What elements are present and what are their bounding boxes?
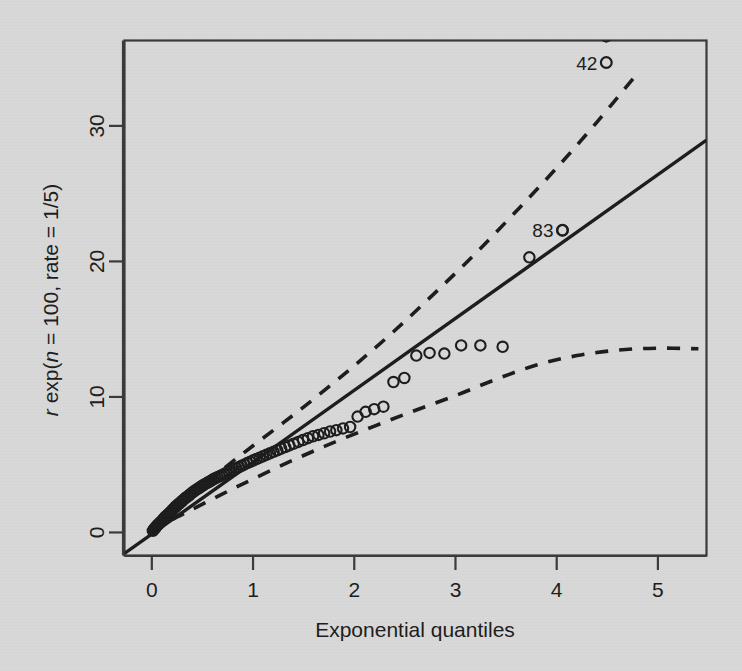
reference-line [125,140,707,553]
y-axis-title-rest: = 100, rate = 1/5) [39,184,62,351]
data-point [411,350,421,360]
data-point [456,340,466,350]
confidence-band-upper-band [152,73,638,530]
point-annotation-label: 42 [576,53,597,74]
y-axis-title-open: exp( [39,362,62,409]
y-tick-label: 10 [85,385,108,408]
data-point [524,252,534,262]
annotated-data-point [601,57,612,68]
data-point [475,340,485,350]
data-point [612,23,622,33]
point-annotation-label: 83 [532,220,553,241]
confidence-band-lower-band [152,348,699,532]
point-annotations: 4283 [532,53,611,242]
data-point [439,348,449,358]
y-axis-ticks: 0102030 [85,114,123,538]
y-axis: 0102030 [85,41,123,556]
qq-plot: 4283 012345 0102030 Exponential quantile… [0,0,742,671]
x-axis-title: Exponential quantiles [315,618,515,641]
x-tick-label: 3 [450,578,462,601]
x-tick-label: 0 [146,578,158,601]
qq-reference-line [125,140,707,553]
data-point [345,422,355,432]
x-tick-label: 4 [551,578,563,601]
y-axis-title-n: n [39,351,62,363]
data-point [399,373,409,383]
x-axis: 012345 [125,556,707,601]
figure-canvas: 4283 012345 0102030 Exponential quantile… [0,0,742,671]
x-axis-ticks: 012345 [146,556,664,601]
data-point [497,342,507,352]
x-tick-label: 2 [348,578,360,601]
data-points [148,23,623,536]
data-point [388,377,398,387]
data-point [424,348,434,358]
y-tick-label: 0 [85,527,108,539]
annotated-data-point [557,225,568,236]
x-tick-label: 5 [652,578,664,601]
y-tick-label: 30 [85,114,108,137]
y-tick-label: 20 [85,250,108,273]
y-axis-title: r exp(n = 100, rate = 1/5) [39,184,62,416]
x-tick-label: 1 [247,578,259,601]
